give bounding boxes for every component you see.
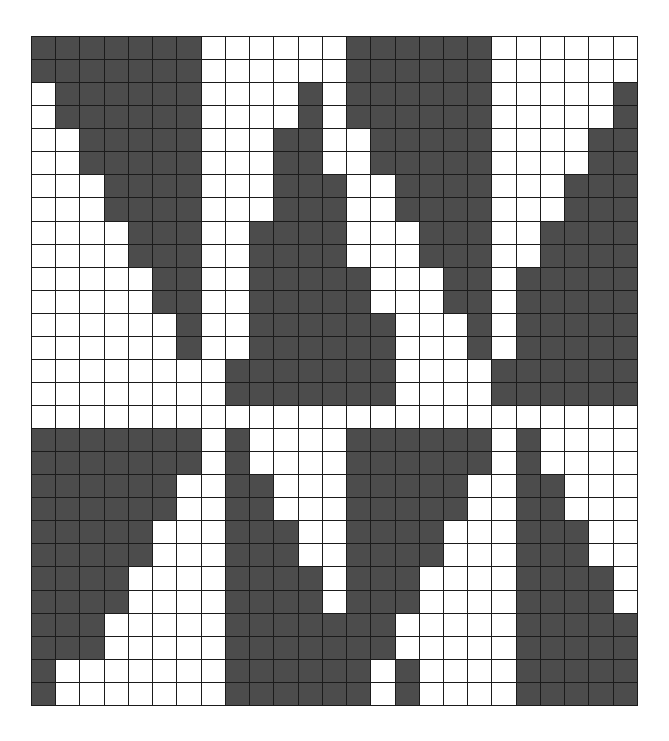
grid-cell [153,83,177,106]
grid-cell [274,682,298,705]
grid-cell [589,244,613,267]
grid-cell [565,359,589,382]
grid-cell [540,406,564,429]
grid-cell [250,106,274,129]
grid-cell [516,590,540,613]
grid-cell [201,544,225,567]
grid-cell [225,129,249,152]
grid-cell [177,60,201,83]
grid-cell [298,682,322,705]
grid-row [32,290,638,313]
grid-cell [80,544,104,567]
grid-cell [516,659,540,682]
grid-cell [153,567,177,590]
grid-cell [56,60,80,83]
grid-cell [613,106,637,129]
grid-cell [250,659,274,682]
grid-cell [613,267,637,290]
grid-cell [613,37,637,60]
grid-cell [419,152,443,175]
grid-cell [589,590,613,613]
grid-cell [589,336,613,359]
grid-cell [56,336,80,359]
grid-cell [225,544,249,567]
grid-cell [274,659,298,682]
grid-cell [298,613,322,636]
grid-cell [371,244,395,267]
grid-cell [443,244,467,267]
grid-cell [56,175,80,198]
grid-cell [274,590,298,613]
grid-cell [565,267,589,290]
grid-cell [540,567,564,590]
grid-cell [516,498,540,521]
grid-cell [201,382,225,405]
grid-cell [419,613,443,636]
grid-cell [32,429,56,452]
grid-cell [201,590,225,613]
grid-cell [177,521,201,544]
page-root [0,0,669,741]
grid-cell [104,659,128,682]
grid-cell [371,429,395,452]
grid-cell [32,313,56,336]
grid-cell [177,290,201,313]
grid-cell [492,106,516,129]
grid-cell [274,290,298,313]
grid-cell [201,359,225,382]
grid-row [32,382,638,405]
grid-cell [177,659,201,682]
grid-cell [492,83,516,106]
grid-cell [468,175,492,198]
grid-cell [347,152,371,175]
grid-cell [153,544,177,567]
grid-table [31,36,638,706]
grid-cell [322,382,346,405]
grid-cell [516,267,540,290]
grid-cell [56,221,80,244]
grid-row [32,475,638,498]
grid-cell [177,544,201,567]
grid-cell [371,475,395,498]
grid-cell [492,129,516,152]
grid-cell [419,521,443,544]
grid-cell [128,83,152,106]
grid-cell [516,37,540,60]
grid-cell [419,682,443,705]
grid-cell [468,636,492,659]
grid-cell [177,429,201,452]
grid-cell [443,613,467,636]
grid-cell [443,83,467,106]
grid-cell [250,60,274,83]
grid-cell [250,613,274,636]
grid-cell [419,106,443,129]
grid-cell [565,567,589,590]
grid-cell [298,290,322,313]
grid-cell [371,498,395,521]
grid-cell [419,244,443,267]
grid-cell [322,590,346,613]
grid-cell [104,152,128,175]
grid-cell [128,267,152,290]
grid-cell [613,313,637,336]
grid-row [32,498,638,521]
grid-cell [32,244,56,267]
grid-cell [298,636,322,659]
grid-cell [347,221,371,244]
grid-cell [589,359,613,382]
grid-cell [80,521,104,544]
grid-cell [177,267,201,290]
grid-cell [201,452,225,475]
grid-cell [589,544,613,567]
grid-row [32,198,638,221]
grid-cell [250,290,274,313]
grid-cell [56,359,80,382]
grid-cell [104,382,128,405]
grid-cell [80,406,104,429]
grid-cell [56,429,80,452]
grid-cell [80,175,104,198]
grid-cell [322,521,346,544]
grid-cell [322,336,346,359]
grid-cell [128,37,152,60]
grid-cell [347,198,371,221]
